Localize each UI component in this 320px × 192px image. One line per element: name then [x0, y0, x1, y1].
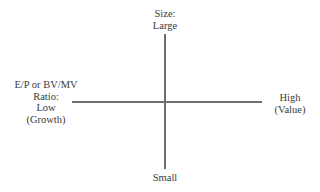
top-label-line-1: Size:: [134, 8, 196, 20]
vertical-axis-line: [164, 34, 166, 169]
bottom-label-line-1: Small: [134, 172, 196, 184]
right-label-line-2: (Value): [262, 104, 318, 116]
horizontal-axis-line: [72, 101, 262, 103]
left-label-line-4: (Growth): [0, 114, 92, 126]
bottom-label-small: Small: [134, 172, 196, 184]
top-label-line-2: Large: [134, 20, 196, 32]
left-label-low-growth: E/P or BV/MV Ratio: Low (Growth): [0, 79, 92, 125]
left-label-line-1: E/P or BV/MV: [0, 79, 92, 91]
right-label-line-1: High: [262, 92, 318, 104]
right-label-high-value: High (Value): [262, 92, 318, 115]
top-label-size-large: Size: Large: [134, 8, 196, 31]
left-label-line-3: Low: [0, 102, 92, 114]
left-label-line-2: Ratio:: [0, 91, 92, 103]
